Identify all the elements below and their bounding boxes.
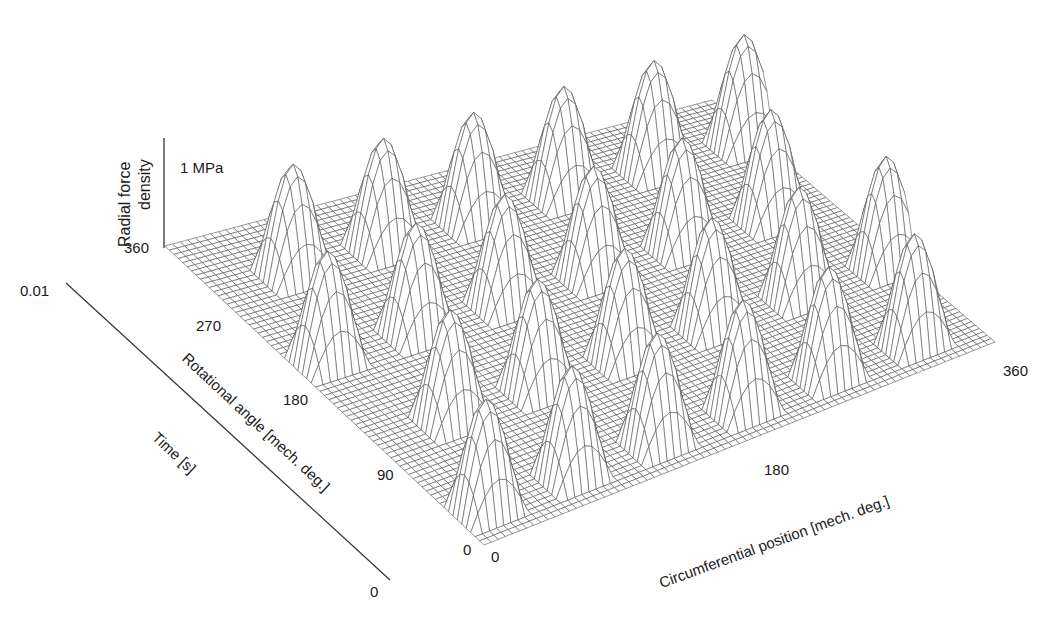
z-axis-label-line2: density [137,159,153,210]
x-tick-180: 180 [764,462,789,477]
y-tick-90: 90 [377,467,394,482]
x-tick-0: 0 [491,549,499,564]
z-axis-label-line1: Radial force [117,162,133,247]
surface-mesh [165,35,995,545]
time-tick-001: 0.01 [20,283,49,298]
y-tick-180: 180 [283,392,308,407]
surface-plot [0,0,1054,625]
z-scale-label: 1 MPa [180,160,223,175]
y-tick-270: 270 [196,318,221,333]
x-tick-360: 360 [1003,363,1028,378]
y-tick-0: 0 [463,542,471,557]
time-tick-0: 0 [370,584,378,599]
y-tick-360: 360 [124,240,149,255]
